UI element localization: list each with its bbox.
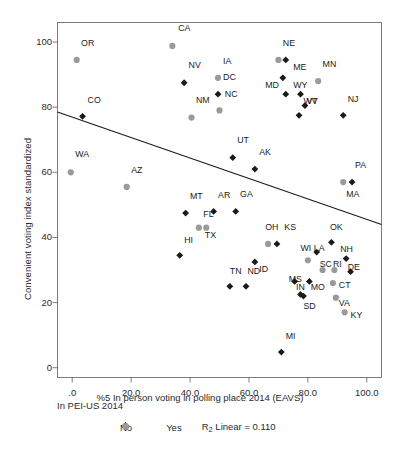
data-point-nh[interactable]: [343, 255, 350, 262]
data-point-ct[interactable]: [330, 280, 336, 286]
point-label-oh: OH: [265, 223, 278, 232]
point-label-ri: RI: [333, 260, 342, 269]
point-label-tx: TX: [205, 231, 216, 240]
data-point-oh[interactable]: [265, 241, 271, 247]
point-label-mi: MI: [286, 332, 296, 341]
data-point-az[interactable]: [124, 184, 130, 190]
data-point-ma[interactable]: [340, 179, 346, 185]
data-point-nd[interactable]: [243, 283, 250, 290]
data-point-mt[interactable]: [182, 210, 189, 217]
point-label-pa: PA: [355, 161, 366, 170]
point-label-sd: SD: [303, 302, 315, 311]
point-label-va: VA: [339, 299, 350, 308]
point-label-ak: AK: [259, 148, 271, 157]
x-tick-40-0: 40.0: [165, 387, 215, 398]
r-squared-annotation: R2 Linear = 0.110: [202, 421, 276, 434]
data-point-dc[interactable]: [215, 91, 222, 98]
point-label-in: IN: [296, 283, 305, 292]
point-label-de: DE: [348, 263, 360, 272]
data-point-mi[interactable]: [278, 349, 285, 356]
data-point-ia[interactable]: [215, 75, 221, 81]
x-tick-80-0: 80.0: [283, 387, 333, 398]
point-label-ma: MA: [346, 190, 359, 199]
point-label-mn: MN: [323, 60, 337, 69]
legend-title: In PEI-US 2014: [57, 400, 123, 411]
y-tick-80: 80: [20, 101, 52, 112]
point-label-sc: SC: [320, 260, 332, 269]
point-label-fl: FL: [203, 210, 213, 219]
point-label-mt: MT: [190, 192, 203, 201]
y-tick-0: 0: [20, 362, 52, 373]
data-point-wa[interactable]: [68, 169, 74, 175]
point-label-nv: NV: [189, 61, 201, 70]
data-point-mn[interactable]: [315, 78, 321, 84]
point-label-nm: NM: [196, 96, 210, 105]
data-point-me[interactable]: [279, 74, 286, 81]
point-label-wv: WV: [303, 97, 317, 106]
point-label-ne: NE: [283, 39, 295, 48]
data-point-nc[interactable]: [216, 107, 222, 113]
data-point-wv[interactable]: [296, 112, 303, 119]
y-tick-40: 40: [20, 231, 52, 242]
y-tick-60: 60: [20, 166, 52, 177]
point-label-ct: CT: [339, 281, 351, 290]
data-point-ak[interactable]: [251, 166, 258, 173]
data-point-nv[interactable]: [181, 79, 188, 86]
data-point-ks[interactable]: [274, 241, 281, 248]
point-label-nh: NH: [340, 245, 353, 254]
point-label-hi: HI: [184, 236, 193, 245]
point-label-wy: WY: [293, 81, 307, 90]
point-label-ca: CA: [178, 24, 190, 33]
data-point-nm[interactable]: [188, 115, 194, 121]
data-point-wi[interactable]: [305, 257, 311, 263]
data-point-ne[interactable]: [275, 57, 281, 63]
x-tick-100-0: 100.0: [342, 387, 392, 398]
point-label-me: ME: [293, 63, 306, 72]
legend-item-yes[interactable]: Yes: [166, 422, 182, 433]
point-label-nj: NJ: [348, 95, 359, 104]
data-point-pa[interactable]: [349, 179, 356, 186]
data-point-ne2[interactable]: [282, 57, 289, 64]
point-label-id: ID: [259, 265, 268, 274]
point-label-la: LA: [314, 244, 325, 253]
data-point-nj[interactable]: [340, 112, 347, 119]
data-point-or[interactable]: [74, 57, 80, 63]
data-point-md[interactable]: [282, 91, 289, 98]
data-point-ga[interactable]: [232, 208, 239, 215]
data-point-ky[interactable]: [342, 309, 348, 315]
data-point-ca[interactable]: [169, 43, 175, 49]
data-point-id[interactable]: [251, 258, 258, 265]
data-point-hi[interactable]: [176, 252, 183, 259]
point-label-mo: MO: [311, 283, 325, 292]
point-label-dc: DC: [223, 73, 236, 82]
y-tick-20: 20: [20, 297, 52, 308]
data-point-tn[interactable]: [226, 283, 233, 290]
point-label-wa: WA: [75, 150, 89, 159]
x-tick--0: .0: [47, 387, 97, 398]
legend: No Yes R2 Linear = 0.110: [120, 421, 276, 434]
point-label-ga: GA: [240, 190, 253, 199]
point-label-ar: AR: [218, 191, 230, 200]
point-label-ky: KY: [351, 311, 363, 320]
point-label-nd: ND: [247, 267, 260, 276]
y-tick-100: 100: [20, 36, 52, 47]
point-label-nc: NC: [225, 90, 238, 99]
point-label-ms: MS: [289, 275, 302, 284]
point-label-az: AZ: [131, 166, 142, 175]
data-point-fl[interactable]: [196, 225, 202, 231]
point-label-ks: KS: [284, 223, 296, 232]
chart-canvas: Convenient voting index standardized %5 …: [0, 0, 400, 467]
point-label-co: CO: [88, 96, 101, 105]
point-label-ok: OK: [330, 223, 343, 232]
x-tick-20-0: 20.0: [106, 387, 156, 398]
point-label-md: MD: [265, 81, 279, 90]
y-axis-label: Convenient voting index standardized: [22, 138, 33, 300]
data-point-ok[interactable]: [328, 239, 335, 246]
point-label-ia: IA: [223, 57, 231, 66]
data-point-co[interactable]: [79, 113, 86, 120]
data-point-ut[interactable]: [229, 154, 236, 161]
point-label-tn: TN: [230, 267, 242, 276]
point-label-ut: UT: [237, 136, 249, 145]
legend-label-yes: Yes: [166, 422, 182, 433]
circle-marker-icon: [120, 421, 131, 432]
